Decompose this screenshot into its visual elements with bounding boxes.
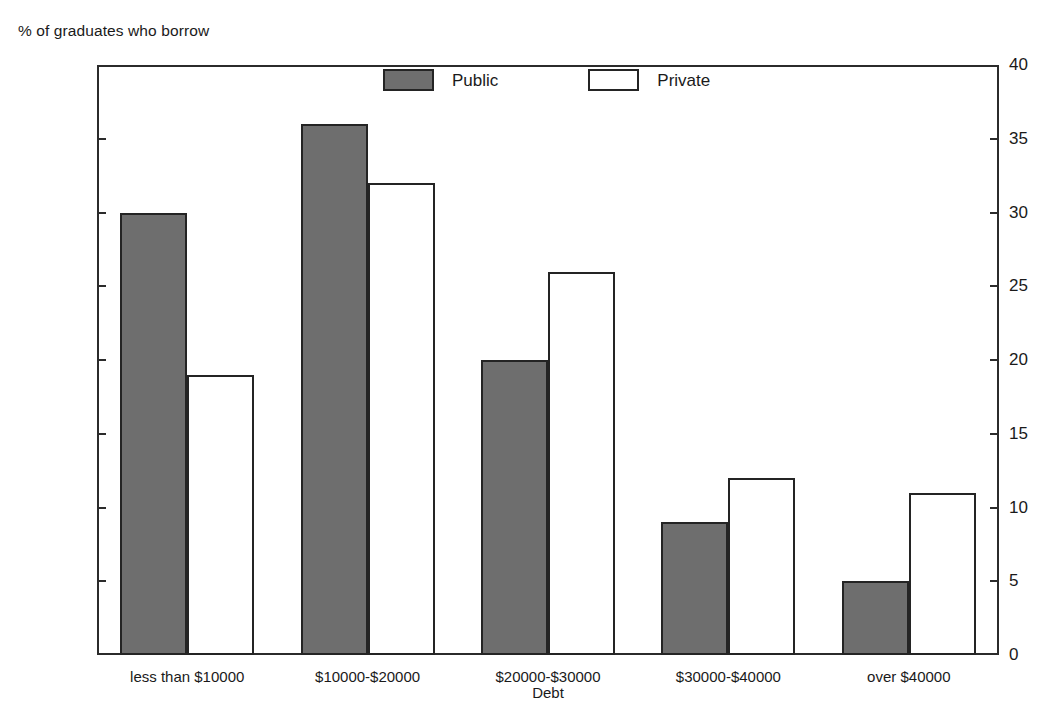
legend-label-private: Private bbox=[657, 72, 710, 89]
bar-public bbox=[842, 581, 909, 655]
bar-private bbox=[368, 183, 435, 655]
legend-entry-private: Private bbox=[588, 69, 710, 91]
y-axis-tick-label-right: 30 bbox=[1009, 204, 1028, 221]
bar-private bbox=[187, 375, 254, 655]
legend-swatch-private-icon bbox=[588, 69, 639, 91]
y-axis-tick-label-right: 5 bbox=[1009, 572, 1018, 589]
y-axis-tick-label-right: 40 bbox=[1009, 56, 1028, 73]
chart-legend: Public Private bbox=[383, 68, 710, 92]
y-axis-tick-label-right: 35 bbox=[1009, 130, 1028, 147]
y-axis-caption: % of graduates who borrow bbox=[18, 22, 209, 40]
bar-private bbox=[728, 478, 795, 655]
y-axis-tick-label-right: 20 bbox=[1009, 351, 1028, 368]
x-axis-category-label: less than $10000 bbox=[130, 669, 244, 685]
plot-area bbox=[97, 65, 999, 655]
y-axis-tick-label-right: 15 bbox=[1009, 425, 1028, 442]
x-axis-category-label: $20000-$30000 bbox=[495, 669, 600, 685]
legend-label-public: Public bbox=[452, 72, 498, 89]
legend-swatch-public-icon bbox=[383, 69, 434, 91]
bar-chart: % of graduates who borrow 00551010151520… bbox=[0, 0, 1064, 724]
bar-public bbox=[661, 522, 728, 655]
bar-public bbox=[481, 360, 548, 655]
x-axis-category-label: over $40000 bbox=[867, 669, 950, 685]
y-axis-tick-label-right: 10 bbox=[1009, 499, 1028, 516]
y-axis-tick-label-right: 25 bbox=[1009, 277, 1028, 294]
legend-entry-public: Public bbox=[383, 69, 498, 91]
x-axis-category-label: $30000-$40000 bbox=[676, 669, 781, 685]
x-axis-category-label: $10000-$20000 bbox=[315, 669, 420, 685]
bar-public bbox=[301, 124, 368, 655]
bar-private bbox=[548, 272, 615, 656]
bar-public bbox=[120, 213, 187, 656]
bar-private bbox=[909, 493, 976, 655]
x-axis-title: Debt bbox=[532, 685, 564, 701]
y-axis-tick-label-right: 0 bbox=[1009, 646, 1018, 663]
